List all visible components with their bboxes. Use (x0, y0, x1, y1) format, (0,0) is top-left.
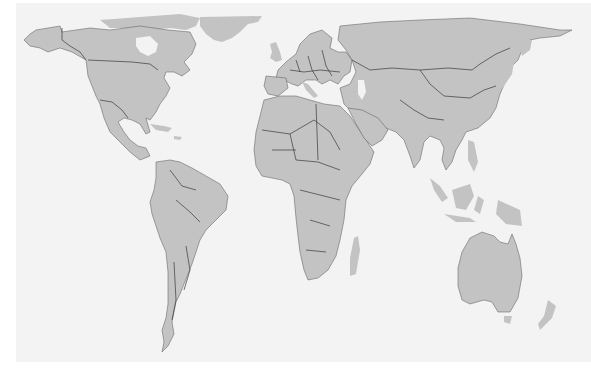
australia (458, 232, 522, 312)
world-map (0, 0, 591, 374)
